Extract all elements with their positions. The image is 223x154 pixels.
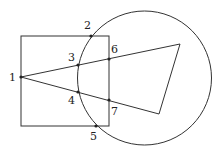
point-4-label: 4 xyxy=(68,94,75,107)
point-6-label: 6 xyxy=(111,43,118,56)
triangle xyxy=(21,44,180,114)
point-3-marker xyxy=(76,63,79,66)
circle xyxy=(78,11,212,145)
point-2-label: 2 xyxy=(84,19,91,32)
point-4-marker xyxy=(76,90,79,93)
point-1-marker xyxy=(19,75,22,78)
point-5-marker xyxy=(94,124,97,127)
point-2-marker xyxy=(89,34,92,37)
point-6-marker xyxy=(107,57,110,60)
point-1-label: 1 xyxy=(9,71,16,84)
point-5-label: 5 xyxy=(90,130,97,143)
geometry-diagram: 1234567 xyxy=(0,0,223,154)
point-7-marker xyxy=(107,98,110,101)
point-3-label: 3 xyxy=(68,51,75,64)
point-7-label: 7 xyxy=(111,105,118,118)
